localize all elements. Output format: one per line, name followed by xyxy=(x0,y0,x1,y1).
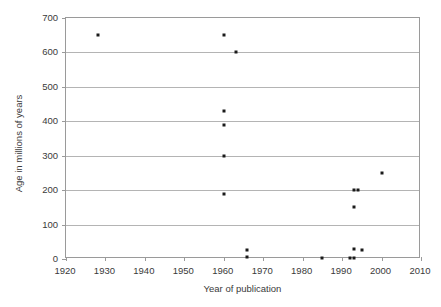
y-axis-tick-label: 400 xyxy=(24,115,58,126)
y-axis-tick-label: 600 xyxy=(24,46,58,57)
y-axis-tick xyxy=(62,225,66,226)
data-point xyxy=(352,247,355,250)
gridline xyxy=(66,156,419,157)
x-axis-tick-label: 1970 xyxy=(252,265,273,276)
data-point xyxy=(222,123,225,126)
y-axis-tick xyxy=(62,52,66,53)
y-axis-tick-label: 100 xyxy=(24,218,58,229)
data-point xyxy=(356,189,359,192)
x-axis-tick xyxy=(184,257,185,261)
data-point xyxy=(246,256,249,259)
y-axis-tick xyxy=(62,156,66,157)
x-axis-tick-label: 1990 xyxy=(331,265,352,276)
x-axis-tick xyxy=(263,257,264,261)
x-axis-tick xyxy=(105,257,106,261)
plot-area xyxy=(65,17,420,258)
x-axis-tick-label: 1920 xyxy=(54,265,75,276)
data-point xyxy=(352,189,355,192)
x-axis-tick-label: 1940 xyxy=(133,265,154,276)
x-axis-tick-label: 1930 xyxy=(94,265,115,276)
y-axis-tick xyxy=(62,190,66,191)
data-point xyxy=(360,249,363,252)
y-axis-tick xyxy=(62,18,66,19)
data-point xyxy=(246,249,249,252)
data-point xyxy=(222,109,225,112)
y-axis-tick-label: 200 xyxy=(24,184,58,195)
x-axis-tick xyxy=(145,257,146,261)
gridline xyxy=(66,190,419,191)
gridline xyxy=(66,225,419,226)
x-axis-tick xyxy=(224,257,225,261)
x-axis-tick xyxy=(421,257,422,261)
gridline xyxy=(66,87,419,88)
data-point xyxy=(352,256,355,259)
x-axis-tick-label: 2010 xyxy=(409,265,430,276)
y-axis-tick-label: 300 xyxy=(24,149,58,160)
data-point xyxy=(222,192,225,195)
data-point xyxy=(380,171,383,174)
y-axis-tick-label: 0 xyxy=(24,253,58,264)
y-axis-tick xyxy=(62,121,66,122)
x-axis-tick-label: 1960 xyxy=(212,265,233,276)
data-point xyxy=(352,206,355,209)
data-point xyxy=(96,34,99,37)
x-axis-tick-label: 1980 xyxy=(291,265,312,276)
x-axis-tick xyxy=(342,257,343,261)
x-axis-tick xyxy=(382,257,383,261)
scatter-chart: Age in millions of years Year of publica… xyxy=(0,0,441,307)
y-axis-tick-label: 500 xyxy=(24,80,58,91)
data-point xyxy=(349,257,352,260)
x-axis-tick-label: 1950 xyxy=(173,265,194,276)
y-axis-title: Age in millions of years xyxy=(13,44,24,244)
x-axis-tick-label: 2000 xyxy=(370,265,391,276)
data-point xyxy=(222,154,225,157)
data-point xyxy=(222,34,225,37)
y-axis-tick-label: 700 xyxy=(24,12,58,23)
y-axis-tick xyxy=(62,87,66,88)
data-point xyxy=(234,51,237,54)
gridline xyxy=(66,52,419,53)
x-axis-tick xyxy=(303,257,304,261)
x-axis-title: Year of publication xyxy=(65,283,420,294)
gridline xyxy=(66,121,419,122)
data-point xyxy=(321,257,324,260)
x-axis-tick xyxy=(66,257,67,261)
